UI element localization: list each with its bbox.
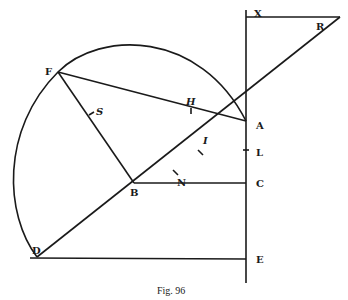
tick-n — [173, 170, 178, 175]
label-l: L — [256, 147, 263, 158]
label-s: S — [96, 106, 103, 117]
label-f: F — [45, 66, 52, 77]
label-d: D — [32, 245, 41, 256]
label-x: X — [254, 8, 262, 19]
tick-i — [198, 150, 203, 155]
label-a: A — [255, 120, 264, 131]
geometry-figure: X R A F H S I N L B C D E Fig. 96 — [0, 0, 348, 300]
label-i: I — [202, 135, 208, 146]
line-de — [30, 258, 246, 259]
diagonal-line-dr — [37, 17, 340, 257]
label-h: H — [185, 96, 196, 107]
label-b: B — [130, 187, 138, 198]
figure-caption: Fig. 96 — [157, 285, 185, 296]
label-r: R — [316, 21, 325, 32]
label-e: E — [256, 254, 264, 265]
label-n: N — [177, 177, 186, 188]
label-c: C — [256, 178, 264, 189]
tick-s — [89, 112, 94, 115]
